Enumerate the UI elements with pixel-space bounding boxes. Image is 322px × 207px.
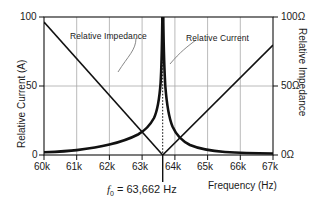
- x-tick-label-60k: 60k: [34, 161, 50, 172]
- y-tick-label-100: 100: [20, 11, 37, 22]
- x-tick-label-65k: 65k: [197, 161, 213, 172]
- x-tick-label-67k: 67k: [262, 161, 278, 172]
- y-axis-label: Relative Current (A): [16, 60, 27, 148]
- impedance-leader-line: [118, 38, 136, 72]
- current-leader-line: [170, 40, 196, 64]
- y2-axis-label: Relative Impedance: [297, 28, 308, 116]
- impedance-trend-line: [44, 22, 163, 155]
- x-tick-label-61k: 61k: [66, 161, 82, 172]
- x-axis-label: Frequency (Hz): [208, 180, 277, 191]
- y2-tick-label-0: 0Ω: [281, 149, 294, 160]
- impedance-curve-label: Relative Impedance: [70, 31, 147, 41]
- x-tick-label-63k: 63k: [132, 161, 148, 172]
- y-tick-marks-right: [273, 17, 278, 155]
- y2-tick-label-100: 100Ω: [281, 11, 305, 22]
- resonance-frequency-annotation: f0 = 63,662 Hz: [107, 183, 177, 197]
- x-tick-label-64k: 64k: [165, 161, 181, 172]
- resonance-frequency-text: f0 = 63,662 Hz: [107, 183, 177, 195]
- y-tick-label-50: 50: [26, 80, 37, 91]
- y-tick-label-0: 0: [32, 149, 38, 160]
- resonance-chart: 100 50 0 100Ω 50Ω 0Ω 60k 61k 62k 63k 64k…: [0, 0, 322, 207]
- current-curve-label: Relative Current: [186, 33, 249, 43]
- x-tick-marks: [44, 155, 273, 160]
- y-tick-marks-left: [39, 17, 44, 155]
- x-tick-label-62k: 62k: [99, 161, 115, 172]
- chart-canvas: [0, 0, 322, 207]
- x-tick-label-66k: 66k: [230, 161, 246, 172]
